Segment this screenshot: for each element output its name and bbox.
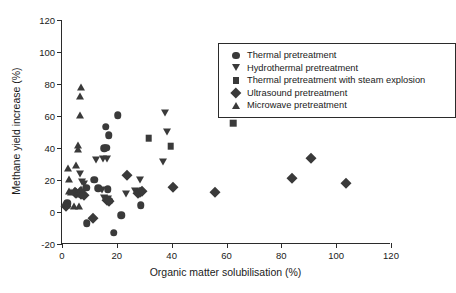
x-tick	[62, 243, 63, 248]
marker-triangle-down	[232, 64, 240, 71]
data-point	[117, 211, 125, 219]
data-point	[211, 188, 219, 196]
legend-label: Thermal pretreatment	[247, 49, 336, 62]
marker-triangle-up	[76, 112, 84, 119]
legend-item[interactable]: Microwave pretreatment	[225, 99, 449, 112]
marker-circle	[83, 219, 91, 227]
legend-item[interactable]: Hydrothermal pretreatment	[225, 62, 449, 75]
y-tick	[57, 52, 62, 53]
y-tick-label: 0	[50, 207, 55, 218]
data-point	[102, 123, 110, 131]
data-point	[103, 156, 111, 163]
data-point	[76, 93, 84, 100]
legend-label: Ultrasound pretreatment	[247, 87, 347, 100]
y-tick-label: 40	[44, 143, 55, 154]
data-point	[136, 176, 144, 183]
marker-circle	[117, 211, 125, 219]
marker-triangle-up	[64, 164, 72, 171]
y-tick-label: -20	[41, 239, 55, 250]
data-point	[74, 145, 82, 152]
y-tick-label: 100	[39, 47, 55, 58]
marker-triangle-down	[159, 159, 167, 166]
marker-square	[233, 77, 240, 84]
marker-triangle-down	[98, 186, 106, 193]
y-tick	[57, 84, 62, 85]
data-point	[83, 219, 91, 227]
legend-item[interactable]: Ultrasound pretreatment	[225, 87, 449, 100]
data-point	[114, 111, 122, 119]
marker-circle	[114, 111, 122, 119]
legend-marker	[225, 52, 247, 60]
data-point	[77, 190, 85, 197]
marker-circle	[102, 123, 110, 131]
data-point	[103, 144, 111, 152]
data-point	[105, 132, 113, 140]
x-tick-label: 100	[328, 250, 344, 261]
data-point	[89, 214, 97, 222]
x-tick-label: 60	[221, 250, 232, 261]
data-point	[122, 191, 130, 198]
data-point	[77, 83, 85, 90]
marker-circle	[105, 132, 113, 140]
marker-triangle-down	[122, 191, 130, 198]
legend-item[interactable]: Thermal pretreatment with steam explosio…	[225, 74, 449, 87]
legend-label: Thermal pretreatment with steam explosio…	[247, 74, 425, 87]
marker-triangle-up	[74, 145, 82, 152]
x-tick	[391, 243, 392, 248]
x-tick-label: 80	[276, 250, 287, 261]
marker-triangle-up	[65, 176, 73, 183]
data-point	[98, 186, 106, 193]
data-point	[230, 120, 237, 127]
data-point	[76, 170, 84, 177]
data-point	[307, 154, 315, 162]
legend-marker	[225, 102, 247, 109]
y-tick	[57, 180, 62, 181]
data-point	[288, 174, 296, 182]
x-tick-label: 40	[166, 250, 177, 261]
x-tick	[117, 243, 118, 248]
y-tick-label: 80	[44, 79, 55, 90]
marker-square	[145, 135, 152, 142]
y-tick-label: 120	[39, 15, 55, 26]
legend-label: Hydrothermal pretreatment	[247, 62, 358, 75]
data-point	[72, 161, 80, 168]
plot-area: -20020406080100120 020406080100120 Therm…	[61, 20, 390, 244]
legend-marker	[225, 77, 247, 84]
marker-circle	[232, 52, 240, 60]
legend-marker	[225, 64, 247, 71]
marker-triangle-up	[232, 102, 240, 109]
chart-legend: Thermal pretreatmentHydrothermal pretrea…	[218, 43, 456, 118]
marker-circle	[137, 201, 145, 209]
y-tick	[57, 148, 62, 149]
marker-square	[167, 143, 174, 150]
x-tick	[336, 243, 337, 248]
marker-triangle-up	[72, 161, 80, 168]
y-tick-label: 60	[44, 111, 55, 122]
y-tick	[57, 116, 62, 117]
data-point	[110, 229, 118, 237]
x-tick-label: 20	[112, 250, 123, 261]
data-point	[91, 176, 99, 184]
data-point	[123, 171, 131, 179]
data-point	[161, 109, 169, 116]
data-point	[169, 183, 177, 191]
data-point	[64, 164, 72, 171]
data-point	[159, 159, 167, 166]
x-tick-label: 120	[383, 250, 399, 261]
marker-circle	[103, 144, 111, 152]
y-tick	[57, 212, 62, 213]
legend-item[interactable]: Thermal pretreatment	[225, 49, 449, 62]
marker-triangle-up	[75, 202, 83, 209]
x-tick	[172, 243, 173, 248]
marker-triangle-up	[76, 93, 84, 100]
y-tick-label: 20	[44, 175, 55, 186]
marker-diamond	[232, 89, 240, 97]
data-point	[163, 128, 171, 135]
x-axis-title: Organic matter solubilisation (%)	[61, 266, 390, 278]
marker-circle	[110, 229, 118, 237]
marker-triangle-down	[163, 128, 171, 135]
marker-square	[230, 120, 237, 127]
marker-triangle-up	[67, 188, 75, 195]
legend-marker	[225, 90, 247, 96]
